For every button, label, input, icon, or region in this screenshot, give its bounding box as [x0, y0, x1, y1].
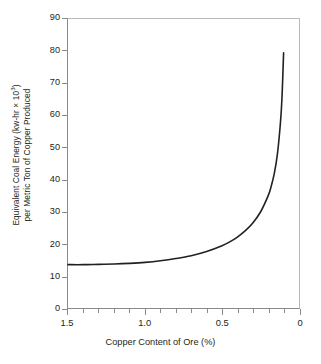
chart-figure: Equivalent Coal Energy (kw-hr × 103) per…: [0, 0, 321, 364]
x-axis-tick-minor: [284, 309, 285, 313]
y-axis-title-exponent: 3: [9, 87, 16, 91]
x-axis-tick-minor: [98, 309, 99, 313]
x-axis-tick-minor: [114, 309, 115, 313]
x-axis-tick-minor: [191, 309, 192, 313]
x-axis-tick-minor: [253, 309, 254, 313]
y-axis-tick-label: 50: [32, 143, 60, 152]
y-axis-title-line2: per Metric Ton of Copper Produced: [22, 84, 33, 225]
x-axis-tick-minor: [269, 309, 270, 313]
y-axis-tick-label: 40: [32, 175, 60, 184]
plot-area: [67, 18, 300, 309]
y-axis-tick-label: 20: [32, 240, 60, 249]
x-axis-tick-major: [300, 309, 301, 315]
y-axis-tick-label: 70: [32, 78, 60, 87]
y-axis-tick-label: 80: [32, 46, 60, 55]
x-axis-tick-label: 1.0: [128, 318, 162, 328]
x-axis-tick-label: 1.5: [50, 318, 84, 328]
x-axis-tick-minor: [238, 309, 239, 313]
x-axis-tick-minor: [207, 309, 208, 313]
x-axis-tick-major: [67, 309, 68, 315]
y-axis-tick-label: 30: [32, 207, 60, 216]
y-axis-tick-label: 10: [32, 272, 60, 281]
x-axis-tick-minor: [160, 309, 161, 313]
y-axis-tick-label: 60: [32, 110, 60, 119]
x-axis-tick-major: [145, 309, 146, 315]
data-curve-svg: [68, 19, 299, 308]
x-axis-tick-minor: [83, 309, 84, 313]
x-axis-tick-major: [222, 309, 223, 315]
y-axis-title-line1: Equivalent Coal Energy (kw-hr × 103): [11, 84, 22, 225]
x-axis-title: Copper Content of Ore (%): [0, 337, 321, 348]
y-axis-tick-label: 0: [32, 304, 60, 313]
x-axis-tick-minor: [129, 309, 130, 313]
x-axis-tick-minor: [176, 309, 177, 313]
x-axis-tick-label: 0.5: [205, 318, 239, 328]
series-line-equivalent-coal-energy: [68, 53, 284, 265]
y-axis-tick-label: 90: [32, 13, 60, 22]
x-axis-tick-label: 0: [283, 318, 317, 328]
